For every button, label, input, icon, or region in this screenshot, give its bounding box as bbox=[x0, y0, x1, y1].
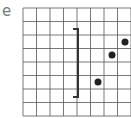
data-point bbox=[122, 39, 129, 46]
data-point bbox=[109, 52, 116, 59]
bracket-line bbox=[73, 29, 78, 97]
data-point bbox=[95, 79, 102, 86]
grid-diagram bbox=[0, 0, 131, 118]
